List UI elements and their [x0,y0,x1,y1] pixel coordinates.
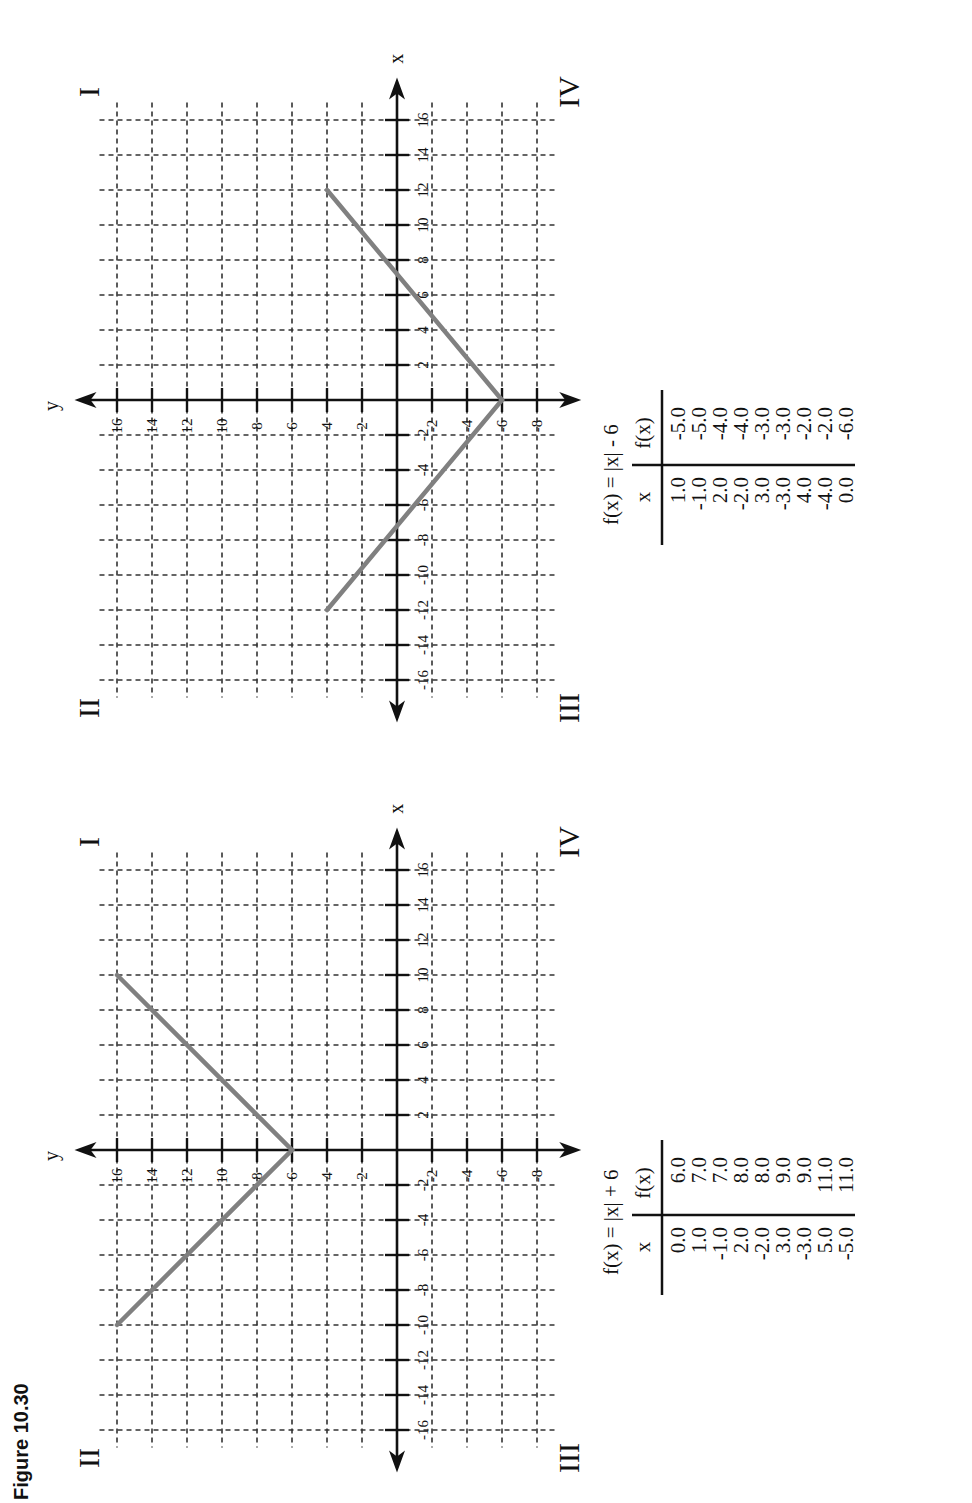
quadrant-label-q3: III [552,693,585,723]
y-tick-label: -8 [529,420,545,433]
y-tick-label: 14 [144,1168,160,1184]
axes: xy-16-14-12-10-8-6-4-2246810121416-8-6-4… [40,54,582,723]
y-tick-label: -6 [494,419,510,432]
x-axis-name: x [385,804,407,814]
axes: xy-16-14-12-10-8-6-4-2246810121416-8-6-4… [40,804,582,1473]
y-tick-label: 12 [179,1169,195,1184]
y-tick-label: 8 [249,422,265,430]
y-axis-name: y [40,1151,63,1161]
y-tick-label: 2 [354,422,370,430]
x-tick-label: 14 [415,897,431,913]
x-tick-label: -16 [415,1420,431,1440]
table-header-x: x [631,491,655,502]
x-tick-label: -6 [415,1248,431,1261]
x-tick-label: -8 [415,1284,431,1297]
x-tick-label: 16 [415,112,431,128]
x-tick-label: 6 [415,1041,431,1049]
y-tick-label: 6 [284,422,300,430]
table-header-x: x [631,1241,655,1252]
quadrant-label-q3: III [552,1443,585,1473]
table-cell-fx: -6.0 [834,407,858,440]
table-cell-x: 0.0 [834,477,858,503]
y-tick-label: -6 [494,1169,510,1182]
x-tick-label: 4 [415,326,431,334]
x-tick-label: -14 [415,1385,431,1405]
table-title: f(x) = |x| + 6 [599,1169,623,1275]
table-title: f(x) = |x| - 6 [599,424,623,525]
x-tick-label: 2 [415,361,431,369]
y-tick-label: -4 [459,1169,475,1182]
x-tick-label: 10 [415,218,431,233]
x-tick-label: -4 [415,1213,431,1226]
quadrant-label-q1: I [72,87,105,97]
y-tick-label: 16 [109,418,125,434]
y-tick-label: 14 [144,418,160,434]
x-tick-label: 12 [415,933,431,948]
y-tick-label: -4 [459,419,475,432]
y-tick-label: 10 [214,419,230,434]
x-tick-label: -10 [415,1315,431,1335]
figure-canvas: xy-16-14-12-10-8-6-4-2246810121416-8-6-4… [0,0,972,1503]
x-axis-name: x [385,54,407,64]
y-tick-label: 2 [354,1172,370,1180]
quadrant-label-q4: IV [552,76,585,108]
table-header-fx: f(x) [631,1167,655,1198]
graph-abs-minus-6: xy-16-14-12-10-8-6-4-2246810121416-8-6-4… [40,54,859,723]
x-tick-label: -14 [415,635,431,655]
figure-caption: Figure 10.30 [10,1383,32,1500]
x-tick-label: 14 [415,147,431,163]
x-tick-label: -10 [415,565,431,585]
table-cell-x: -5.0 [834,1227,858,1260]
x-tick-label: -12 [415,1350,431,1370]
x-tick-label: -16 [415,670,431,690]
quadrant-label-q1: I [72,837,105,847]
y-tick-label: -2 [424,420,440,433]
table-header-fx: f(x) [631,417,655,448]
x-tick-label: 10 [415,968,431,983]
value-table: f(x) = |x| + 6xf(x)0.06.01.07.0-1.07.02.… [599,1140,858,1295]
y-tick-label: 6 [284,1172,300,1180]
y-tick-label: -8 [529,1170,545,1183]
x-tick-label: 16 [415,862,431,878]
graph-abs-plus-6: xy-16-14-12-10-8-6-4-2246810121416-8-6-4… [40,804,859,1473]
y-tick-label: 10 [214,1169,230,1184]
x-tick-label: 4 [415,1076,431,1084]
y-tick-label: 4 [319,422,335,430]
quadrant-label-q2: II [72,698,105,718]
quadrant-label-q2: II [72,1448,105,1468]
x-tick-label: 8 [415,1006,431,1014]
y-tick-label: 16 [109,1168,125,1184]
table-cell-fx: 11.0 [834,1157,858,1193]
y-tick-label: -2 [424,1170,440,1183]
x-tick-label: -8 [415,534,431,547]
x-tick-label: -12 [415,600,431,620]
value-table: f(x) = |x| - 6xf(x)1.0-5.0-1.0-5.02.0-4.… [599,390,858,545]
x-tick-label: 2 [415,1111,431,1119]
y-axis-name: y [40,401,63,411]
quadrant-label-q4: IV [552,826,585,858]
y-tick-label: 4 [319,1172,335,1180]
y-tick-label: 12 [179,419,195,434]
x-tick-label: 12 [415,183,431,198]
x-tick-label: -4 [415,463,431,476]
x-tick-label: 8 [415,256,431,264]
